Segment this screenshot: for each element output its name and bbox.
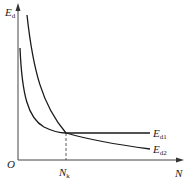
y-axis-arrow-icon [16, 3, 21, 11]
curve-ed1 [20, 48, 150, 133]
x-axis-arrow-icon [176, 158, 184, 163]
series-label-ed2: Ed2 [152, 143, 167, 157]
nk-tick-label: Nk [58, 166, 70, 180]
diagram-canvas: Ed O Nk N Ed1 Ed2 [0, 0, 186, 190]
y-axis-label: Ed [4, 6, 16, 20]
x-axis-label: N [174, 167, 183, 179]
series-label-ed1: Ed1 [152, 127, 167, 141]
curve-ed2 [27, 15, 150, 149]
curves [20, 15, 150, 149]
origin-label: O [7, 158, 15, 170]
